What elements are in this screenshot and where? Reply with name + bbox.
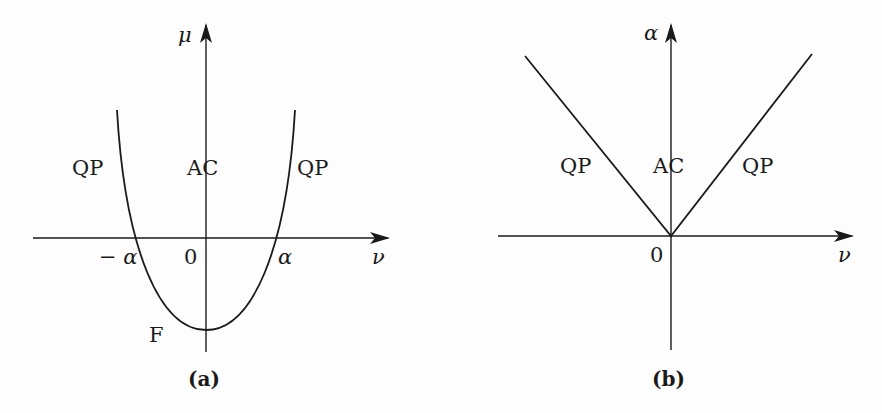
v-shape-curve <box>525 54 812 236</box>
tick-label-neg-alpha: − α <box>99 245 137 269</box>
tick-label-origin: 0 <box>650 243 663 267</box>
phase-diagrams: μ ν QP AC QP F − α 0 α (a) α ν QP AC QP … <box>0 0 882 413</box>
y-axis-label: μ <box>178 23 192 47</box>
tick-label-origin: 0 <box>184 245 197 269</box>
x-axis-label: ν <box>372 245 385 269</box>
panel-a: μ ν QP AC QP F − α 0 α (a) <box>33 23 388 391</box>
region-label-qp-left: QP <box>72 156 103 180</box>
figure: μ ν QP AC QP F − α 0 α (a) α ν QP AC QP … <box>0 0 882 413</box>
region-label-f: F <box>149 323 164 347</box>
region-label-qp-left: QP <box>560 154 591 178</box>
caption-b: (b) <box>652 367 685 391</box>
region-label-qp-right: QP <box>742 154 773 178</box>
region-label-qp-right: QP <box>297 156 328 180</box>
panel-b: α ν QP AC QP 0 (b) <box>498 21 852 391</box>
y-axis-label: α <box>644 21 658 45</box>
x-axis-label: ν <box>838 243 851 267</box>
region-label-ac: AC <box>186 156 218 180</box>
tick-label-alpha: α <box>278 245 292 269</box>
caption-a: (a) <box>188 367 220 391</box>
region-label-ac: AC <box>652 154 684 178</box>
